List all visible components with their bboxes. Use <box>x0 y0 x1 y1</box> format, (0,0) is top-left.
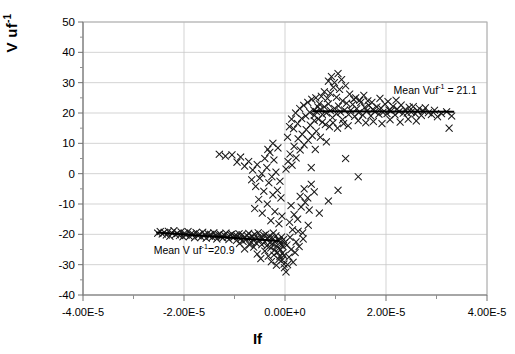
upper-mean-line <box>313 111 454 112</box>
x-tick-label: -4.00E-5 <box>44 306 122 318</box>
y-tick-label: 20 <box>41 107 75 119</box>
x-tick-label: -2.00E-5 <box>145 306 223 318</box>
y-tick-label: -20 <box>41 228 75 240</box>
plot-area <box>0 0 515 354</box>
x-tick-label: 4.00E-5 <box>448 306 515 318</box>
y-tick-label: 10 <box>41 137 75 149</box>
y-tick-label: -30 <box>41 259 75 271</box>
x-tick-label: 0.00E+0 <box>246 306 324 318</box>
y-tick-label: -40 <box>41 289 75 301</box>
annotation-mean-upper: Mean Vuf-1 = 21.1 <box>394 83 477 96</box>
annotation-mean-lower: Mean V uf-1=20.9 <box>154 243 235 256</box>
x-tick-label: 2.00E-5 <box>347 306 425 318</box>
y-tick-label: 50 <box>41 16 75 28</box>
scatter-chart: V uf-1 If -40-30-20-1001020304050 -4.00E… <box>0 0 515 354</box>
y-tick-label: -10 <box>41 198 75 210</box>
y-tick-label: 0 <box>41 168 75 180</box>
y-tick-label: 30 <box>41 77 75 89</box>
y-tick-label: 40 <box>41 46 75 58</box>
